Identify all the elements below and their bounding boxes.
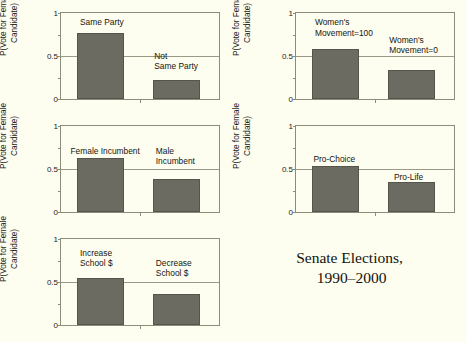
y-minor-tick-025: [58, 304, 61, 305]
y-tick-label-05: 0.5: [47, 165, 58, 174]
y-minor-tick-075: [58, 148, 61, 149]
bar-not-same-party: [153, 80, 200, 99]
bar-label-womens-movement-100: Women's Movement=100: [315, 17, 373, 38]
y-minor-tick-025: [58, 78, 61, 79]
y-minor-tick-025: [293, 191, 296, 192]
plot-area-womens-movement: 1 0.5 0 Women's Movement=100 Women's Mov…: [295, 12, 455, 100]
y-tick-mark-1: [293, 126, 296, 127]
x-center-tick: [140, 99, 141, 103]
plot-area-abortion: 1 0.5 0 Pro-Choice Pro-Life: [295, 125, 455, 213]
bar-label-female-incumbent: Female Incumbent: [70, 146, 139, 157]
y-tick-label-05: 0.5: [47, 52, 58, 61]
bar-same-party: [77, 33, 124, 99]
y-axis-label: P(Vote for Female Candidate): [0, 201, 29, 297]
bar-pro-life: [388, 182, 435, 212]
senate-elections-figure: P(Vote for Female Candidate) 1 0.5 0 Sam…: [0, 0, 466, 342]
x-center-tick: [140, 212, 141, 216]
y-minor-tick-075: [293, 35, 296, 36]
figure-title-line1: Senate Elections,: [296, 248, 403, 268]
x-center-tick: [140, 325, 141, 329]
bar-increase-school-funding: [77, 278, 124, 325]
y-tick-mark-0: [293, 212, 296, 213]
bar-label-same-party: Same Party: [80, 17, 124, 28]
y-tick-mark-0: [58, 99, 61, 100]
figure-title: Senate Elections, 1990–2000: [233, 226, 466, 342]
bar-womens-movement-0: [388, 70, 435, 99]
y-minor-tick-025: [293, 78, 296, 79]
y-axis-label: P(Vote for Female Candidate): [232, 88, 262, 184]
plot-area-school-funding: 1 0.5 0 Increase School $ Decrease Schoo…: [60, 238, 220, 326]
panel-same-party: P(Vote for Female Candidate) 1 0.5 0 Sam…: [0, 0, 233, 113]
bar-label-not-same-party: Not Same Party: [154, 51, 198, 72]
y-minor-tick-075: [293, 148, 296, 149]
bar-female-incumbent: [77, 158, 124, 212]
y-tick-mark-0: [293, 99, 296, 100]
bar-label-increase-school: Increase School $: [80, 248, 113, 269]
y-axis-label: P(Vote for Female Candidate): [0, 0, 29, 71]
bar-label-decrease-school: Decrease School $: [156, 258, 192, 279]
y-tick-mark-1: [58, 126, 61, 127]
plot-area-same-party: 1 0.5 0 Same Party Not Same Party: [60, 12, 220, 100]
panel-incumbent: P(Vote for Female Candidate) 1 0.5 0 Fem…: [0, 113, 233, 226]
y-tick-label-05: 0.5: [47, 278, 58, 287]
y-tick-label-05: 0.5: [282, 52, 293, 61]
x-center-tick: [375, 99, 376, 103]
plot-area-incumbent: 1 0.5 0 Female Incumbent Male Incumbent: [60, 125, 220, 213]
panel-abortion: P(Vote for Female Candidate) 1 0.5 0 Pro…: [233, 113, 466, 226]
y-tick-label-05: 0.5: [282, 165, 293, 174]
bar-label-womens-movement-0: Women's Movement=0: [389, 35, 438, 56]
y-tick-mark-0: [58, 212, 61, 213]
bar-label-pro-life: Pro-Life: [394, 172, 423, 183]
panel-school-funding: P(Vote for Female Candidate) 1 0.5 0 Inc…: [0, 226, 233, 339]
figure-title-line2: 1990–2000: [313, 268, 387, 288]
y-axis-label: P(Vote for Female Candidate): [0, 88, 29, 184]
bar-decrease-school-funding: [153, 294, 200, 325]
panel-womens-movement: P(Vote for Female Candidate) 1 0.5 0 Wom…: [233, 0, 466, 113]
y-tick-mark-1: [58, 13, 61, 14]
y-minor-tick-075: [58, 35, 61, 36]
bar-pro-choice: [312, 166, 359, 212]
y-minor-tick-075: [58, 261, 61, 262]
y-tick-mark-0: [58, 325, 61, 326]
y-tick-mark-1: [293, 13, 296, 14]
bar-label-male-incumbent: Male Incumbent: [156, 146, 195, 167]
bar-label-pro-choice: Pro-Choice: [313, 154, 355, 165]
bar-male-incumbent: [153, 179, 200, 212]
x-center-tick: [375, 212, 376, 216]
y-axis-label: P(Vote for Female Candidate): [232, 0, 262, 71]
y-tick-mark-1: [58, 239, 61, 240]
bar-womens-movement-100: [312, 49, 359, 99]
y-minor-tick-025: [58, 191, 61, 192]
